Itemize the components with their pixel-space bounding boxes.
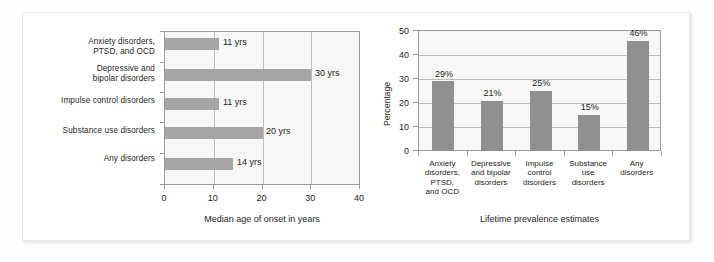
left-bar-value-1: 30 yrs <box>315 68 340 78</box>
right-yticklabel-1: 10 <box>393 122 409 132</box>
right-category-label-1-line-1: and bipolar <box>467 168 516 177</box>
right-bar-value-3: 15% <box>578 102 602 112</box>
right-category-label-0-line-2: PTSD, <box>418 178 467 187</box>
left-ytick-1 <box>160 62 164 63</box>
left-xticklabel-0: 0 <box>154 193 174 203</box>
left-category-label-3-line-0: Substance use disorders <box>23 126 155 136</box>
left-bar-value-2: 11 yrs <box>223 97 247 107</box>
right-category-label-0-line-3: and OCD <box>418 187 467 196</box>
left-ytick-4 <box>160 153 164 154</box>
right-plot-area: 29% 21% 25% 15% 46% <box>418 30 661 151</box>
right-yticklabel-2: 20 <box>393 98 409 108</box>
right-yticklabel-0: 0 <box>393 146 409 156</box>
right-category-label-4-line-1: disorders <box>612 168 661 177</box>
left-xaxis-title: Median age of onset in years <box>164 214 360 224</box>
right-xtick-4 <box>612 151 613 156</box>
left-bar-1 <box>165 69 311 81</box>
right-bar-value-1: 21% <box>481 88 505 98</box>
left-category-label-0-line-0: Anxiety disorders, <box>31 37 155 47</box>
right-category-label-3-line-0: Substance <box>564 159 613 168</box>
right-category-label-3-line-1: use <box>564 168 613 177</box>
left-plot-area: 11 yrs 30 yrs 11 yrs 20 yrs 14 yrs <box>164 31 360 185</box>
left-xtick-0 <box>164 185 165 189</box>
right-bar-value-2: 25% <box>529 78 553 88</box>
left-xtick-30 <box>310 185 311 189</box>
right-xtick-2 <box>515 151 516 156</box>
left-gridline-30 <box>311 32 312 184</box>
right-yticklabel-3: 30 <box>393 74 409 84</box>
left-category-label-1: Depressive and bipolar disorders <box>31 64 155 83</box>
right-xaxis-title: Lifetime prevalence estimates <box>418 214 661 224</box>
left-bar-3 <box>165 127 263 139</box>
figure-root: Anxiety disorders, PTSD, and OCD Depress… <box>0 0 714 262</box>
right-category-label-4: Any disorders <box>612 159 661 178</box>
left-category-label-0: Anxiety disorders, PTSD, and OCD <box>31 37 155 56</box>
left-category-label-2: Impulse control disorders <box>23 96 155 106</box>
left-category-label-0-line-1: PTSD, and OCD <box>31 47 155 57</box>
right-bar-2 <box>530 91 552 151</box>
right-bar-value-4: 46% <box>626 28 650 38</box>
right-category-label-2: Impulse control disorders <box>515 159 564 187</box>
left-gridline-20 <box>263 32 264 184</box>
left-bar-value-4: 14 yrs <box>237 157 262 167</box>
left-category-label-4-line-0: Any disorders <box>23 154 155 164</box>
left-bar-value-3: 20 yrs <box>266 126 291 136</box>
right-xtick-5 <box>661 151 662 156</box>
left-bar-0 <box>165 38 219 50</box>
left-bar-2 <box>165 98 219 110</box>
right-bar-value-0: 29% <box>432 69 456 79</box>
right-bar-3 <box>578 115 600 151</box>
left-bar-4 <box>165 158 233 170</box>
left-category-label-1-line-1: bipolar disorders <box>31 74 155 84</box>
right-category-label-0-line-0: Anxiety <box>418 159 467 168</box>
right-yticklabel-5: 50 <box>393 26 409 36</box>
left-category-label-3: Substance use disorders <box>23 126 155 136</box>
left-chart-panel: Anxiety disorders, PTSD, and OCD Depress… <box>23 13 357 242</box>
right-category-label-2-line-2: disorders <box>515 178 564 187</box>
right-xtick-1 <box>467 151 468 156</box>
right-yaxis-title: Percentage <box>382 82 392 126</box>
left-xtick-10 <box>213 185 214 189</box>
right-category-label-3: Substance use disorders <box>564 159 613 187</box>
left-ytick-2 <box>160 92 164 93</box>
right-xtick-3 <box>564 151 565 156</box>
right-category-label-1: Depressive and bipolar disorders <box>467 159 516 187</box>
right-bar-1 <box>481 101 503 151</box>
figure-card: Anxiety disorders, PTSD, and OCD Depress… <box>22 12 690 241</box>
right-category-label-2-line-1: control <box>515 168 564 177</box>
right-bar-4 <box>627 41 649 151</box>
left-xtick-20 <box>262 185 263 189</box>
right-category-label-1-line-2: disorders <box>467 178 516 187</box>
left-bar-value-0: 11 yrs <box>223 37 247 47</box>
right-gridline-40 <box>419 55 660 56</box>
right-yticklabel-4: 40 <box>393 50 409 60</box>
left-xticklabel-1: 10 <box>203 193 223 203</box>
right-category-label-3-line-2: disorders <box>564 178 613 187</box>
right-bar-0 <box>432 81 454 151</box>
left-ytick-3 <box>160 122 164 123</box>
left-xticklabel-3: 30 <box>300 193 320 203</box>
left-ytick-0 <box>160 31 164 32</box>
right-category-label-0: Anxiety disorders, PTSD, and OCD <box>418 159 467 197</box>
right-category-label-0-line-1: disorders, <box>418 168 467 177</box>
left-xticklabel-2: 20 <box>252 193 272 203</box>
right-category-label-1-line-0: Depressive <box>467 159 516 168</box>
right-category-label-4-line-0: Any <box>612 159 661 168</box>
left-category-label-2-line-0: Impulse control disorders <box>23 96 155 106</box>
right-chart-panel: Percentage 50 40 30 20 10 0 <box>357 13 691 242</box>
left-category-label-1-line-0: Depressive and <box>31 64 155 74</box>
right-xtick-0 <box>418 151 419 156</box>
right-category-label-2-line-0: Impulse <box>515 159 564 168</box>
left-category-label-4: Any disorders <box>23 154 155 164</box>
